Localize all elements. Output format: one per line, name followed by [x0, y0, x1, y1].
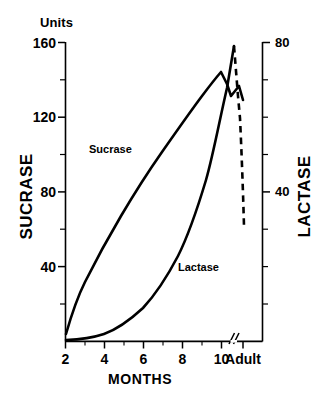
y-left-tick-label-40: 40	[22, 260, 56, 274]
y-left-tick-label-120: 120	[22, 110, 56, 124]
x-axis-ticks	[66, 341, 244, 348]
series-curve-lactase	[66, 46, 234, 340]
right-axis-ticks	[263, 43, 271, 305]
left-axis-ticks	[58, 43, 65, 305]
series-curve-lactase-dashed	[234, 46, 244, 226]
x-tick-label-4: 4	[88, 352, 122, 366]
axis-lines	[65, 42, 263, 342]
chart-canvas	[0, 0, 328, 400]
y-left-tick-label-160: 160	[22, 36, 56, 50]
y-right-tick-label-80: 80	[275, 36, 305, 49]
units-label: Units	[40, 16, 73, 29]
series-label-sucrase: Sucrase	[89, 144, 132, 155]
chart-figure: Units 160 120 80 40 80 40 2 4 6 8 10 Adu…	[0, 0, 328, 400]
x-tick-label-8: 8	[166, 352, 200, 366]
x-tick-label-adult: Adult	[217, 352, 269, 366]
x-tick-label-6: 6	[127, 352, 161, 366]
y-left-axis-title: SUCRASE	[18, 137, 35, 257]
series-label-lactase: Lactase	[178, 262, 219, 273]
x-axis-title: MONTHS	[108, 372, 172, 386]
x-tick-label-2: 2	[49, 352, 83, 366]
y-right-axis-title: LACTASE	[296, 137, 313, 257]
axis-break-icon	[229, 333, 239, 344]
